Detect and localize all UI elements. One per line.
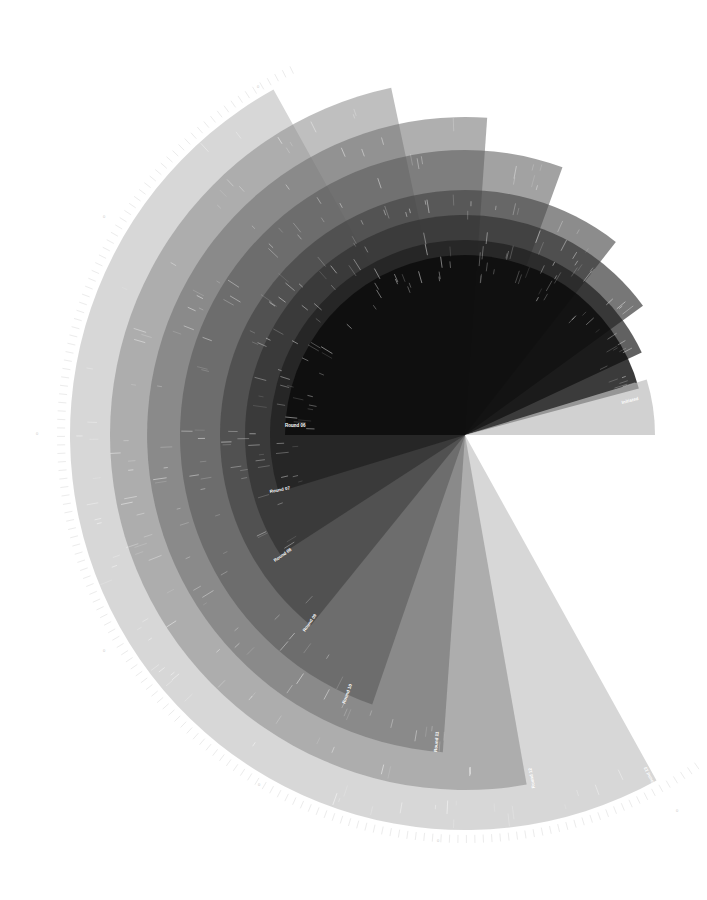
tick-mark [187, 728, 192, 734]
tick-mark [169, 710, 175, 715]
tick-mark [357, 821, 359, 829]
tick-mark [100, 614, 107, 618]
tick-mark [252, 87, 256, 94]
tick-mark [136, 671, 142, 676]
tick-mark [407, 831, 408, 839]
tick-mark [139, 189, 145, 194]
tick-label: 0 [103, 648, 106, 653]
tick-mark [621, 803, 624, 810]
tick-mark [398, 830, 399, 838]
tick-mark [141, 678, 147, 683]
tick-mark [59, 394, 67, 395]
data-streak [110, 453, 120, 454]
tick-mark [316, 807, 319, 814]
tick-mark [117, 643, 124, 647]
tick-mark [590, 815, 592, 823]
tick-mark [85, 286, 92, 289]
tick-mark [93, 599, 100, 602]
tick-mark [59, 470, 67, 471]
tick-mark [390, 828, 391, 836]
tick-mark [70, 536, 78, 538]
tick-mark [88, 278, 95, 281]
tick-mark [197, 127, 202, 133]
tick-mark [373, 825, 375, 833]
tick-mark [637, 796, 640, 803]
tick-mark [95, 263, 102, 266]
tick-mark [238, 96, 242, 103]
tick-mark [152, 691, 158, 696]
tick-mark [111, 232, 118, 236]
data-streak [453, 195, 454, 206]
tick-mark [179, 144, 185, 150]
tick-mark [108, 629, 115, 633]
tick-label: 0 [258, 782, 261, 787]
tick-mark [533, 829, 534, 837]
tick-mark [89, 591, 96, 594]
tick-mark [694, 763, 699, 770]
data-streak [450, 261, 451, 268]
tick-mark [62, 495, 70, 496]
tick-mark [629, 800, 632, 807]
tick-mark [248, 773, 252, 780]
tick-mark [285, 794, 289, 801]
tick-mark [161, 163, 167, 168]
tick-mark [167, 157, 173, 162]
tick-mark [61, 377, 69, 378]
tick-mark [566, 822, 568, 830]
tick-label: 0 [676, 808, 679, 813]
tick-mark [66, 352, 74, 354]
tick-mark [270, 786, 274, 793]
tick-mark [134, 196, 140, 201]
tick-mark [245, 91, 249, 98]
tick-mark [348, 818, 350, 826]
tick-mark [126, 658, 133, 662]
tick-mark [185, 139, 190, 145]
tick-mark [558, 824, 560, 832]
sector-label: Round 06 [285, 423, 306, 428]
tick-mark [382, 827, 384, 835]
tick-mark [191, 133, 196, 139]
tick-mark [193, 733, 198, 739]
tick-mark [492, 834, 493, 842]
tick-mark [155, 169, 161, 174]
tick-mark [293, 798, 296, 805]
tick-mark [508, 833, 509, 841]
tick-mark [541, 828, 543, 836]
data-streak [248, 445, 260, 446]
tick-mark [267, 78, 271, 85]
tick-mark [112, 636, 119, 640]
tick-mark [681, 772, 685, 779]
tick-mark [150, 176, 156, 181]
tick-mark [121, 651, 128, 655]
tick-mark [60, 385, 68, 386]
tick-mark [146, 685, 152, 690]
tick-mark [103, 247, 110, 251]
tick-mark [277, 790, 281, 797]
tick-mark [574, 820, 576, 828]
tick-mark [262, 782, 266, 789]
tick-mark [66, 520, 74, 522]
data-streak [495, 206, 496, 210]
tick-label: 0 [257, 84, 260, 89]
tick-mark [224, 106, 229, 112]
tick-mark [83, 576, 90, 579]
tick-mark [290, 66, 293, 73]
tick-mark [233, 764, 238, 771]
tick-mark [365, 823, 367, 831]
tick-label: 0 [103, 214, 106, 219]
tick-mark [432, 834, 433, 842]
tick-mark [324, 810, 327, 818]
data-streak [128, 470, 133, 471]
tick-mark [275, 74, 279, 81]
tick-mark [598, 812, 601, 820]
tick-mark [219, 754, 224, 760]
tick-mark [69, 335, 77, 337]
tick-mark [308, 804, 311, 811]
tick-mark [213, 749, 218, 755]
tick-mark [240, 769, 244, 776]
tick-mark [300, 801, 303, 808]
tick-mark [60, 487, 68, 488]
tick-mark [415, 832, 416, 840]
tick-mark [340, 816, 342, 824]
tick-mark [173, 151, 179, 157]
